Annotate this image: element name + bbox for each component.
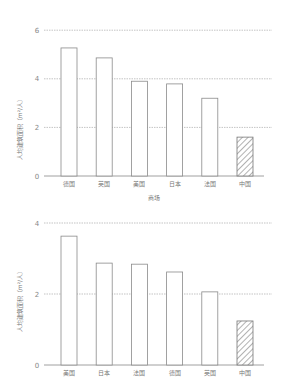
bar-chart-bottom: 024美国日本法国德国英国中国人均建筑面积（m²/人） [0, 205, 289, 379]
x-tick-label: 法国 [133, 369, 145, 377]
y-tick-label: 4 [35, 220, 40, 228]
bar-日本 [96, 263, 112, 365]
x-axis-label: 商场 [148, 194, 160, 202]
bar-德国 [61, 48, 77, 176]
bar-法国 [202, 98, 218, 176]
bar-美国 [131, 81, 147, 176]
bar-chart-top: 0246德国英国美国日本法国中国人均建筑面积（m²/人）商场 [0, 0, 289, 205]
y-tick-label: 2 [35, 124, 39, 132]
y-tick-label: 0 [35, 362, 39, 370]
bar-英国 [202, 292, 218, 365]
y-tick-label: 4 [35, 75, 40, 83]
y-axis-label: 人均建筑面积（m²/人） [16, 96, 24, 160]
x-tick-label: 美国 [63, 369, 75, 377]
bar-日本 [167, 84, 183, 176]
y-tick-label: 2 [35, 291, 39, 299]
x-tick-label: 英国 [98, 180, 110, 188]
x-tick-label: 中国 [239, 369, 251, 377]
x-tick-label: 英国 [204, 369, 216, 377]
bar-英国 [96, 58, 112, 176]
x-tick-label: 日本 [98, 369, 110, 377]
bar-德国 [167, 272, 183, 365]
x-tick-label: 日本 [169, 180, 181, 188]
chart-bottom: 024美国日本法国德国英国中国人均建筑面积（m²/人） [0, 205, 289, 379]
y-tick-label: 6 [35, 27, 40, 35]
x-tick-label: 法国 [204, 180, 216, 188]
x-tick-label: 美国 [133, 180, 145, 188]
x-tick-label: 德国 [169, 369, 181, 377]
x-tick-label: 德国 [63, 180, 75, 188]
x-tick-label: 中国 [239, 180, 251, 188]
bar-法国 [131, 264, 147, 365]
bar-美国 [61, 236, 77, 365]
y-axis-label: 人均建筑面积（m²/人） [16, 268, 24, 332]
y-tick-label: 0 [35, 173, 39, 181]
bar-中国 [237, 137, 253, 176]
bar-中国 [237, 321, 253, 365]
chart-top: 0246德国英国美国日本法国中国人均建筑面积（m²/人）商场 [0, 0, 289, 205]
